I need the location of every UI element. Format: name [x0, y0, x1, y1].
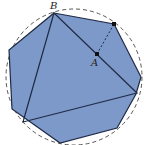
point-a [95, 52, 99, 56]
polygon-diagram [0, 0, 146, 145]
label-a: A [91, 57, 98, 68]
vertex-point [112, 22, 116, 26]
diagram: B A [0, 0, 146, 145]
label-b: B [50, 0, 57, 11]
